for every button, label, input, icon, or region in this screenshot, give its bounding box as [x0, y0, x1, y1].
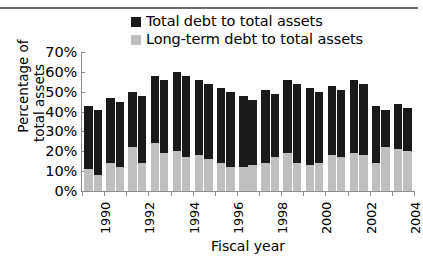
bar-segment-long-term-debt — [84, 169, 92, 191]
bar — [372, 106, 380, 191]
bar-group — [259, 52, 281, 191]
bar-segment-long-term-debt — [204, 159, 212, 191]
x-axis-tick-label: 2004 — [408, 202, 423, 234]
bar — [106, 98, 114, 191]
bar-segment-long-term-debt — [261, 163, 269, 191]
bar-group — [148, 52, 170, 191]
bar — [160, 80, 168, 191]
bar — [271, 94, 279, 191]
bar-segment-long-term-debt — [283, 153, 291, 191]
bar — [381, 110, 389, 191]
bar — [138, 96, 146, 191]
x-axis-title: Fiscal year — [82, 238, 414, 254]
bar-group — [392, 52, 414, 191]
bar-group — [303, 52, 325, 191]
y-axis-tick-label: 50% — [45, 84, 77, 100]
bar-group — [104, 52, 126, 191]
bar-segment-long-term-debt — [138, 163, 146, 191]
bar-group — [348, 52, 370, 191]
y-axis-tick-label: 40% — [45, 104, 77, 120]
bar-segment-long-term-debt — [94, 175, 102, 191]
y-axis-tick-label: 30% — [45, 123, 77, 139]
x-axis-tick-label: 2000 — [319, 202, 334, 234]
bar-segment-long-term-debt — [248, 165, 256, 191]
y-axis-tick-labels: 70%60%50%40%30%20%10%0% — [33, 45, 77, 197]
bar-segment-long-term-debt — [271, 157, 279, 191]
bar — [350, 80, 358, 191]
gray-square-swatch — [131, 35, 141, 45]
plot-area — [82, 52, 414, 191]
bar-segment-long-term-debt — [315, 163, 323, 191]
bar-group — [215, 52, 237, 191]
x-axis-tick-label: 1998 — [275, 202, 290, 234]
x-axis-tick-label: 1992 — [142, 202, 157, 234]
y-axis-tick-label: 0% — [54, 183, 77, 199]
bar-segment-long-term-debt — [372, 163, 380, 191]
legend-label: Total debt to total assets — [146, 13, 323, 30]
bar — [182, 76, 190, 191]
bar-group — [126, 52, 148, 191]
bar-segment-long-term-debt — [217, 163, 225, 191]
bar — [217, 88, 225, 191]
bar-segment-long-term-debt — [306, 165, 314, 191]
bar-group — [370, 52, 392, 191]
bar-segment-long-term-debt — [182, 157, 190, 191]
x-axis-tick-mark — [414, 191, 415, 196]
bar — [315, 92, 323, 191]
x-axis-tick-labels: 19901992199419961998200020022004 — [82, 196, 414, 236]
bar — [293, 84, 301, 191]
bar-group — [171, 52, 193, 191]
bar-segment-long-term-debt — [116, 167, 124, 191]
bar-group — [325, 52, 347, 191]
legend-item: Total debt to total assets — [131, 13, 363, 30]
legend-item: Long-term debt to total assets — [131, 31, 363, 48]
bar-segment-long-term-debt — [350, 153, 358, 191]
bar — [283, 80, 291, 191]
bar-segment-long-term-debt — [195, 155, 203, 191]
bar-segment-long-term-debt — [128, 147, 136, 191]
bar-group — [281, 52, 303, 191]
bar — [226, 92, 234, 191]
dark-square-swatch — [131, 17, 141, 27]
x-axis-tick-label: 1996 — [231, 202, 246, 234]
bar-segment-long-term-debt — [381, 147, 389, 191]
bar — [248, 100, 256, 191]
bar-segment-long-term-debt — [337, 157, 345, 191]
y-axis-tick-label: 60% — [45, 64, 77, 80]
bar — [173, 72, 181, 191]
legend-label: Long-term debt to total assets — [146, 31, 363, 48]
bar-segment-long-term-debt — [328, 155, 336, 191]
bar — [116, 102, 124, 191]
bar-segment-long-term-debt — [151, 143, 159, 191]
bar — [306, 88, 314, 191]
bar — [403, 108, 411, 191]
bar-segment-long-term-debt — [293, 163, 301, 191]
x-axis-tick-label: 2002 — [364, 202, 379, 234]
bar — [204, 84, 212, 191]
bar — [94, 110, 102, 191]
bar-group — [193, 52, 215, 191]
bar — [195, 80, 203, 191]
bar-segment-long-term-debt — [226, 167, 234, 191]
bar — [128, 92, 136, 191]
bar — [84, 106, 92, 191]
bar-segment-long-term-debt — [359, 155, 367, 191]
y-axis-tick-label: 70% — [45, 44, 77, 60]
bar-segment-long-term-debt — [394, 149, 402, 191]
bar — [261, 90, 269, 191]
bar — [239, 96, 247, 191]
bar-segment-long-term-debt — [239, 167, 247, 191]
bar-segment-long-term-debt — [403, 151, 411, 191]
chart-legend: Total debt to total assetsLong-term debt… — [131, 13, 363, 48]
bar-segment-long-term-debt — [173, 151, 181, 191]
bar — [151, 76, 159, 191]
x-axis-tick-label: 1990 — [98, 202, 113, 234]
bar — [337, 90, 345, 191]
bar — [359, 84, 367, 191]
bar-segment-long-term-debt — [106, 163, 114, 191]
bar — [394, 104, 402, 191]
y-axis-tick-label: 20% — [45, 143, 77, 159]
bar-segment-long-term-debt — [160, 153, 168, 191]
y-axis-tick-label: 10% — [45, 163, 77, 179]
